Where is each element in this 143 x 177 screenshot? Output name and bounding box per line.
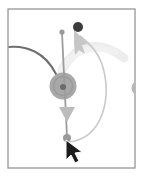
diagram-canvas — [0, 0, 143, 177]
figure-root — [0, 0, 143, 177]
target-dot[interactable] — [73, 22, 83, 32]
node-center-dot — [60, 84, 66, 90]
gesture-diagram-svg — [0, 0, 143, 177]
drag-line-top-dot[interactable] — [59, 29, 64, 34]
